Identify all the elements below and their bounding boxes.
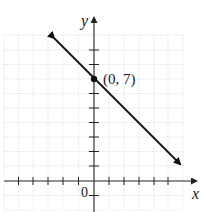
x-axis-label: x bbox=[191, 185, 199, 202]
y-axis-label: y bbox=[79, 12, 89, 30]
line-y-equals-neg-x-plus-7 bbox=[54, 38, 180, 164]
point-label: (0, 7) bbox=[103, 71, 136, 88]
y-intercept-point bbox=[91, 76, 97, 82]
origin-label: 0 bbox=[81, 185, 88, 200]
coordinate-plane: (0, 7) y x 0 bbox=[0, 0, 202, 212]
